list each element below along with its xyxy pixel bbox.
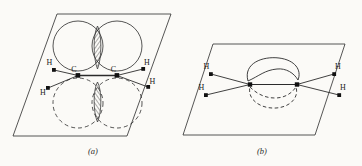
caption-panel-b: (b) — [257, 146, 267, 156]
atom-dot-hydrogen-upper-right — [141, 67, 145, 71]
overlap-region-lower — [94, 82, 101, 122]
atom-dot-hydrogen-lower-left — [46, 86, 50, 90]
atom-dot-hydrogen-upper-left — [52, 68, 56, 72]
atom-dot-carbon-left — [248, 82, 252, 86]
atom-dot-carbon-right — [295, 82, 299, 86]
label-hydrogen-upper-right: H — [335, 62, 341, 71]
label-carbon-right: C — [111, 65, 116, 74]
label-hydrogen-upper-left: H — [47, 58, 53, 67]
atom-dot-hydrogen-upper-right — [332, 72, 336, 76]
caption-panel-a: (a) — [88, 146, 98, 156]
atom-dot-hydrogen-lower-left — [204, 93, 208, 97]
label-hydrogen-lower-left: H — [199, 83, 205, 92]
label-hydrogen-lower-right: H — [340, 83, 346, 92]
label-hydrogen-lower-left: H — [40, 88, 46, 97]
label-hydrogen-lower-right: H — [150, 77, 156, 86]
label-hydrogen-upper-left: H — [204, 62, 210, 71]
ethylene-pi-bond-figure: C C H H H H (a) H H H H — [0, 0, 362, 166]
figure-background — [0, 0, 362, 166]
label-carbon-left: C — [71, 65, 76, 74]
label-hydrogen-upper-right: H — [144, 58, 150, 67]
atom-dot-hydrogen-lower-right — [337, 93, 341, 97]
atom-dot-hydrogen-lower-right — [146, 85, 150, 89]
atom-dot-hydrogen-upper-left — [209, 72, 213, 76]
